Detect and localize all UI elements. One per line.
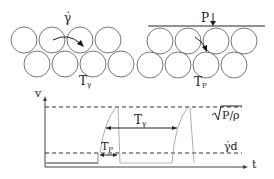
pulse-2-fall <box>190 107 194 163</box>
left-grain-layer <box>11 27 134 77</box>
t-gamma-arrow-right-icon <box>172 126 177 130</box>
pulse-1-fall <box>118 107 120 163</box>
t-p-arrow-right-icon <box>113 153 117 157</box>
t-p-interval-label: TP <box>101 140 113 154</box>
pulse-2-rise <box>172 107 188 163</box>
t-gamma-interval-label: Tγ <box>134 113 146 128</box>
fall-arrowhead-icon <box>202 45 207 52</box>
lower-level-label: γ̇d <box>224 140 238 153</box>
pressure-arrowhead-icon <box>210 21 216 26</box>
y-axis-label: v <box>34 87 42 100</box>
pressure-label: P <box>201 11 209 25</box>
x-axis-label: t <box>252 158 257 171</box>
granular-diagram: γ̇ Tγ P TP v t <box>0 0 274 179</box>
upper-level-label: P/ρ <box>222 109 240 122</box>
shear-rate-label: γ̇ <box>64 11 71 25</box>
t-p-label: TP <box>194 75 207 90</box>
velocity-plot: v t Tγ TP P/ρ γ̇d <box>34 87 257 171</box>
x-axis-arrow-icon <box>243 165 248 169</box>
t-p-arrow-left-icon <box>100 153 104 157</box>
y-axis-arrow-icon <box>43 96 47 101</box>
t-gamma-arrow-left-icon <box>106 126 111 130</box>
right-grain-layer <box>137 28 257 78</box>
